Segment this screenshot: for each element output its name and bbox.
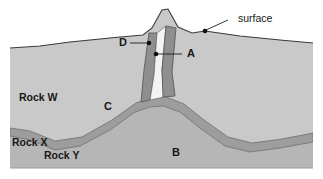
point-label-c-group: C — [104, 100, 112, 112]
point-a-marker-dot — [154, 52, 159, 57]
cross-section-diagram: Rock W Rock X Rock Y A B C D surface — [0, 0, 323, 179]
point-b-label: B — [172, 146, 180, 158]
surface-callout-marker-dot — [203, 29, 208, 34]
rock-unit-y-label: Rock Y — [44, 149, 79, 161]
point-c-label: C — [104, 100, 112, 112]
point-label-b-group: B — [172, 146, 180, 158]
point-a-label: A — [187, 47, 195, 59]
surface-callout-label: surface — [238, 12, 273, 24]
rock-unit-w-label: Rock W — [19, 91, 58, 103]
point-d-marker-dot — [147, 41, 152, 46]
rock-unit-x-label: Rock X — [12, 136, 48, 148]
point-d-label: D — [119, 36, 127, 48]
geologic-cross-section-figure: Rock W Rock X Rock Y A B C D surface — [0, 0, 323, 179]
